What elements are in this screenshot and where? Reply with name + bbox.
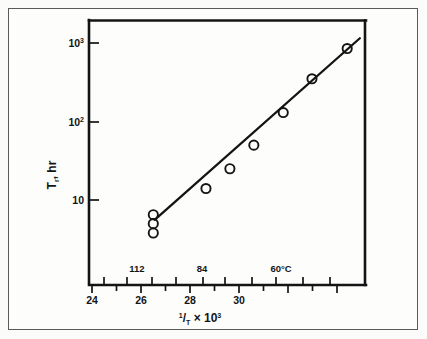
fit-line <box>155 38 360 220</box>
figure-page: 103 102 10 Tr, hr 24 26 28 30 <box>0 0 427 339</box>
x-axis-tick-labels: 24 26 28 30 <box>86 294 245 306</box>
arrhenius-scatter-plot: 103 102 10 Tr, hr 24 26 28 30 <box>0 0 427 339</box>
data-point <box>201 184 210 193</box>
y-tick-label-1000: 103 <box>68 37 84 49</box>
data-point <box>149 210 158 219</box>
y-tick-label-10: 10 <box>72 194 84 206</box>
y-axis-title: Tr, hr <box>45 160 60 189</box>
plot-axes-spines <box>89 20 366 285</box>
data-point <box>149 219 158 228</box>
temp-label-84: 84 <box>197 263 208 274</box>
y-axis-title-text: Tr, hr <box>45 160 60 189</box>
y-axis-ticks <box>89 43 99 200</box>
secondary-temperature-axis-labels: 112 84 60°C <box>129 263 291 274</box>
data-point <box>225 164 234 173</box>
x-tick-label-30: 30 <box>233 294 245 306</box>
data-point <box>149 228 158 237</box>
temp-label-60C: 60°C <box>270 263 291 274</box>
temp-label-112: 112 <box>129 263 144 274</box>
y-axis-tick-labels: 103 102 10 <box>68 37 84 206</box>
data-point <box>249 141 258 150</box>
y-tick-label-100: 102 <box>68 116 84 128</box>
data-point <box>279 108 288 117</box>
x-tick-label-28: 28 <box>184 294 196 306</box>
x-tick-label-24: 24 <box>86 294 98 306</box>
x-axis-title: 1/T × 103 <box>179 311 222 326</box>
x-axis-title-text: 1/T × 103 <box>179 311 222 326</box>
x-tick-label-26: 26 <box>135 294 147 306</box>
